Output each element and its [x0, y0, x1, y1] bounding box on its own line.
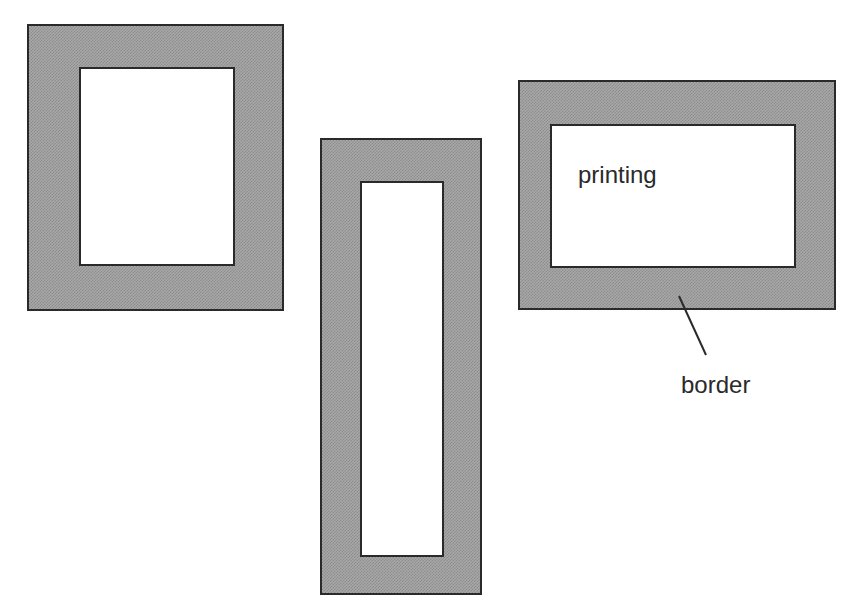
border-leader-line: [0, 0, 844, 603]
border-label: border: [681, 373, 750, 397]
